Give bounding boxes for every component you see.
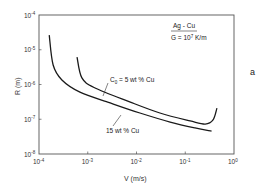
gradient-label: G = 107 K/m [171, 34, 207, 42]
x-axis-title: V (m/s) [124, 175, 147, 183]
y-tick-label: 10-7 [24, 115, 36, 123]
x-tick-label: 10-1 [179, 158, 191, 166]
y-tick-label: 10-6 [24, 81, 36, 89]
panel-label: a [250, 67, 255, 77]
chart: 10-410-310-210-1100 10-410-510-610-710-8… [0, 0, 266, 186]
x-axis-ticks: 10-410-310-210-1100 [33, 152, 238, 166]
curve-5wt-cu [77, 57, 217, 124]
x-tick-label: 10-3 [82, 158, 94, 166]
x-tick-label: 10-2 [131, 158, 143, 166]
curve-15wt-cu [49, 35, 211, 131]
x-tick-label: 10-4 [33, 158, 45, 166]
leader-line-15wt [113, 115, 121, 126]
y-tick-label: 10-8 [24, 150, 36, 158]
x-tick-label: 100 [228, 158, 238, 166]
y-tick-label: 10-4 [24, 11, 36, 19]
y-axis-title: R (m) [14, 78, 22, 96]
curve-label-15wt: 15 wt % Cu [106, 127, 140, 134]
curve-label-5wt: C0 = 5 wt % Cu [110, 76, 155, 85]
leader-line-5wt [103, 83, 108, 96]
y-tick-label: 10-5 [24, 46, 36, 54]
system-label: Ag - Cu [173, 22, 195, 30]
